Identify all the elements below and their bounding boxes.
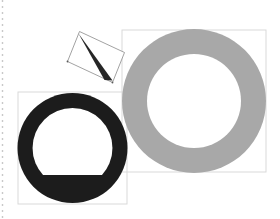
shape-composition-svg (0, 0, 280, 219)
canvas-stage: geometric-shape-composition (0, 0, 280, 219)
frame-corner-mark-bottom (112, 82, 114, 84)
dark-annulus-shape (0, 0, 280, 219)
frame-corner-mark-left (67, 61, 69, 63)
